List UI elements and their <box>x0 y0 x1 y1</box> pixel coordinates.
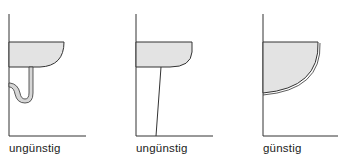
basin <box>9 42 64 67</box>
panel-2-figure <box>136 14 213 136</box>
sink-installation-diagram <box>0 0 347 165</box>
panel-2-label: ungünstig <box>136 142 188 154</box>
panel-3-figure <box>263 14 338 136</box>
panel-3-label: günstig <box>263 142 301 154</box>
basin <box>136 42 192 67</box>
trap-pipe <box>9 67 33 103</box>
pedestal-line <box>156 67 161 136</box>
panel-1-label: ungünstig <box>9 142 61 154</box>
panel-1-figure <box>9 14 86 136</box>
basin <box>263 42 318 93</box>
